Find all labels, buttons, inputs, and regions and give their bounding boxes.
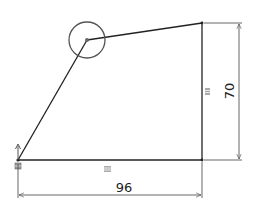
bottom-right-point[interactable] [201,159,204,162]
horizontal-relation-icon [104,166,111,172]
width-dimension-value[interactable]: 96 [116,180,133,195]
sketch-canvas[interactable]: 96 70 [0,0,253,210]
top-right-point[interactable] [201,22,204,25]
vertex-points [16,22,203,162]
left-edge[interactable] [18,40,87,160]
sketch-profile [18,23,202,160]
apex-point[interactable] [85,38,89,42]
vertical-relation-icon [205,88,210,95]
height-dimension-value[interactable]: 70 [222,83,237,100]
